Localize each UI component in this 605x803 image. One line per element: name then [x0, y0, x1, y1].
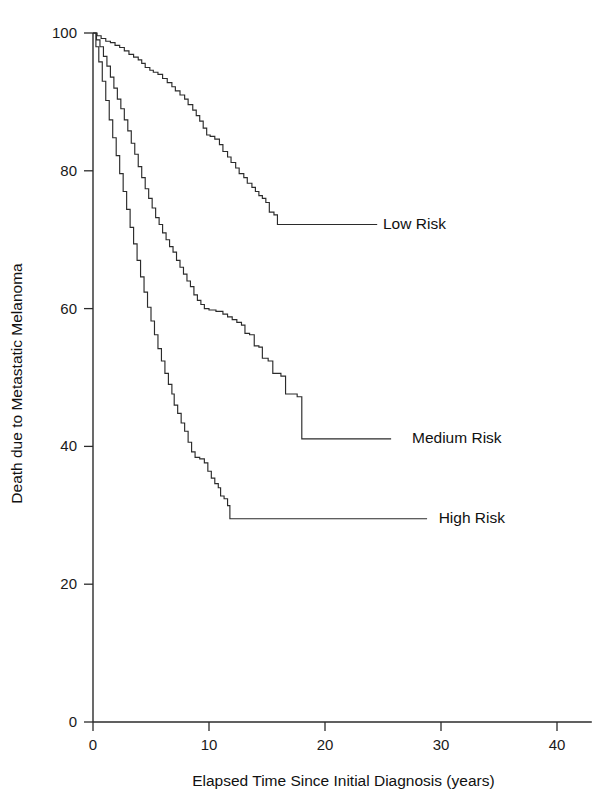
series-label-high-risk: High Risk [439, 509, 506, 526]
y-tick-label-40: 40 [60, 437, 77, 454]
y-tick-label-100: 100 [52, 24, 77, 41]
x-tick-label-0: 0 [89, 736, 97, 753]
chart-canvas: 020406080100010203040 Low RiskMedium Ris… [0, 0, 605, 803]
y-tick-label-80: 80 [60, 162, 77, 179]
y-tick-label-20: 20 [60, 575, 77, 592]
series-labels-group: Low RiskMedium RiskHigh Risk [383, 215, 505, 526]
tick-labels-group: 020406080100010203040 [52, 24, 565, 753]
curve-medium-risk [93, 33, 391, 439]
x-tick-label-30: 30 [433, 736, 450, 753]
series-label-medium-risk: Medium Risk [412, 429, 502, 446]
y-axis-title: Death due to Metastatic Melanoma [8, 263, 25, 504]
curve-high-risk [93, 33, 427, 519]
x-tick-label-40: 40 [549, 736, 566, 753]
y-tick-label-60: 60 [60, 300, 77, 317]
x-axis-title: Elapsed Time Since Initial Diagnosis (ye… [192, 772, 494, 789]
axes-group [93, 33, 592, 722]
series-label-low-risk: Low Risk [383, 215, 446, 232]
data-curves-group [93, 33, 427, 519]
x-tick-label-20: 20 [317, 736, 334, 753]
x-tick-label-10: 10 [201, 736, 218, 753]
survival-curve-figure: 020406080100010203040 Low RiskMedium Ris… [0, 0, 605, 803]
tick-marks-group [84, 33, 557, 731]
y-tick-label-0: 0 [69, 713, 77, 730]
legend-leader-lines-group [377, 225, 427, 519]
axis-titles-group: Elapsed Time Since Initial Diagnosis (ye… [8, 263, 495, 789]
curve-low-risk [93, 33, 377, 225]
